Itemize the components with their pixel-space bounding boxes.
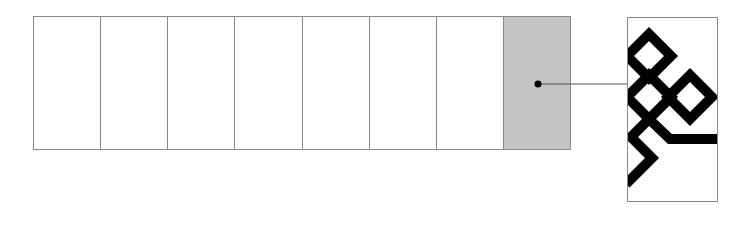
strip-cell-2 — [101, 17, 168, 149]
strip-cell-4 — [235, 17, 302, 149]
strip-cell-1 — [34, 17, 101, 149]
strip-cell-8-highlighted — [504, 17, 570, 149]
strip-cell-3 — [168, 17, 235, 149]
pattern-strip — [33, 16, 571, 150]
strip-cell-6 — [370, 17, 437, 149]
pattern-detail-tile — [627, 17, 718, 202]
strip-cell-7 — [437, 17, 504, 149]
strip-cell-5 — [303, 17, 370, 149]
diamond-knot-motif-icon — [628, 18, 718, 202]
